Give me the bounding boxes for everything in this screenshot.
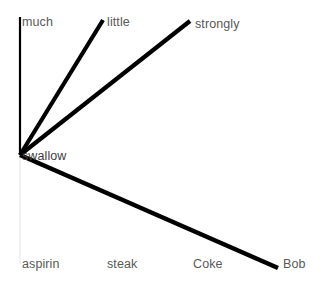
edge-strongly-line bbox=[20, 21, 190, 155]
edge-bob-line bbox=[20, 155, 278, 268]
edge-little-line bbox=[20, 20, 103, 155]
label-bob: Bob bbox=[283, 258, 306, 271]
diagram-canvas bbox=[0, 0, 325, 292]
label-much: much bbox=[22, 16, 53, 29]
radial-word-diagram: much little strongly swallow aspirin ste… bbox=[0, 0, 325, 292]
label-little: little bbox=[107, 16, 130, 29]
label-strongly: strongly bbox=[195, 18, 240, 31]
label-coke: Coke bbox=[193, 258, 223, 271]
label-aspirin: aspirin bbox=[22, 258, 60, 271]
label-swallow: swallow bbox=[22, 150, 66, 163]
label-steak: steak bbox=[107, 258, 137, 271]
